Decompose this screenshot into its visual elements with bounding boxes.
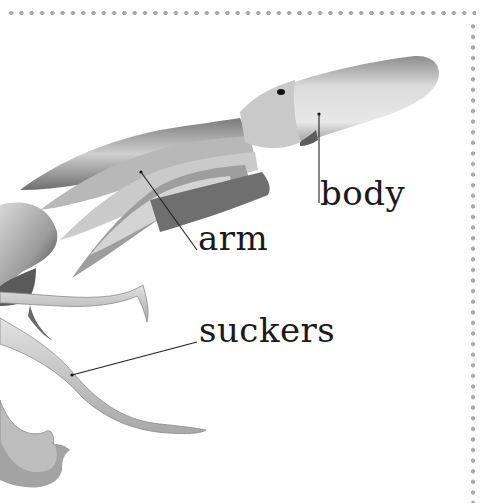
illustration-page: body arm suckers <box>0 0 486 503</box>
suckers-leader-line <box>72 342 197 375</box>
label-suckers: suckers <box>199 313 335 347</box>
squid-eye <box>277 89 285 95</box>
label-body: body <box>320 176 405 210</box>
label-arm: arm <box>198 221 268 255</box>
squid-body <box>240 56 439 148</box>
